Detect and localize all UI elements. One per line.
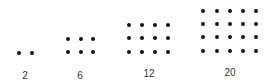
dot — [241, 49, 245, 53]
group-count-label: 12 — [143, 69, 154, 79]
dot — [228, 22, 232, 26]
dot — [153, 50, 157, 54]
dot — [254, 22, 258, 26]
dot — [254, 49, 258, 53]
dot — [127, 36, 131, 40]
dot-array-diagram: 261220 — [0, 0, 272, 84]
dot — [166, 23, 170, 27]
dot — [79, 37, 83, 41]
dot — [201, 9, 205, 13]
group-count-label: 20 — [224, 68, 235, 78]
dot — [241, 35, 245, 39]
dot — [166, 50, 170, 54]
group-count-label: 2 — [22, 71, 28, 81]
dot — [79, 50, 83, 54]
dot — [140, 23, 144, 27]
group-count-label: 6 — [77, 71, 83, 81]
dot — [91, 50, 95, 54]
dot — [201, 49, 205, 53]
dot — [241, 22, 245, 26]
dot — [127, 50, 131, 54]
dot — [91, 37, 95, 41]
dot — [241, 9, 245, 13]
dot — [140, 50, 144, 54]
dot — [127, 23, 131, 27]
dot — [66, 50, 70, 54]
dot — [228, 49, 232, 53]
dot — [228, 35, 232, 39]
dot — [254, 35, 258, 39]
dot — [17, 51, 21, 55]
dot — [140, 36, 144, 40]
dot — [215, 9, 219, 13]
dot — [66, 37, 70, 41]
dot — [215, 35, 219, 39]
dot — [201, 22, 205, 26]
dot — [215, 22, 219, 26]
dot — [166, 36, 170, 40]
dot — [201, 35, 205, 39]
dot — [215, 49, 219, 53]
dot — [228, 9, 232, 13]
dot — [254, 9, 258, 13]
dot — [153, 36, 157, 40]
dot — [30, 51, 34, 55]
dot — [153, 23, 157, 27]
